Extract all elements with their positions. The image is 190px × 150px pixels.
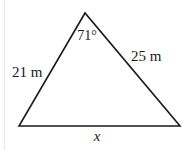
apex-angle-label: 71°: [77, 28, 97, 43]
triangle-shape: [19, 13, 180, 126]
base-label: x: [93, 128, 101, 144]
triangle-diagram: 71° 21 m 25 m x: [0, 0, 190, 150]
triangle-svg: 71° 21 m 25 m x: [0, 0, 190, 150]
left-side-label: 21 m: [12, 64, 43, 80]
right-side-label: 25 m: [131, 48, 162, 64]
